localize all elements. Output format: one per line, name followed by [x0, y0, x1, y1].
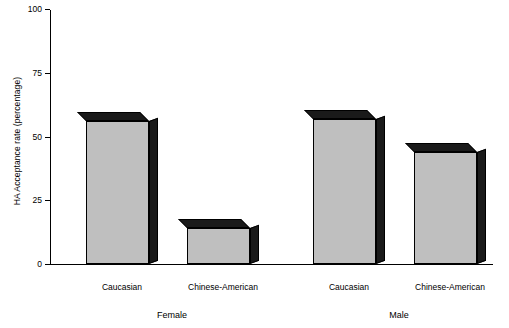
x-axis-line	[50, 264, 493, 265]
y-tick-label: 25	[33, 195, 42, 205]
bar-front-face	[414, 152, 477, 264]
bar-top-face	[178, 219, 250, 228]
x-group-label-female: Female	[157, 310, 187, 320]
x-category-label-female-caucasian: Caucasian	[102, 282, 142, 292]
y-axis-line	[50, 10, 51, 265]
bar-top-face	[405, 143, 477, 152]
bar-side-face	[250, 225, 259, 264]
bar-front-face	[86, 121, 149, 264]
y-tick-mark	[45, 200, 50, 201]
bar-top-face	[304, 110, 376, 119]
y-tick-label: 0	[37, 259, 42, 269]
x-category-label-male-chinese-american: Chinese-American	[415, 282, 485, 292]
bar-side-face	[149, 118, 158, 264]
y-tick-label: 50	[33, 132, 42, 142]
y-tick-mark	[45, 73, 50, 74]
y-tick-label: 100	[28, 4, 42, 14]
bar-side-face	[477, 149, 486, 264]
bar-front-face	[313, 119, 376, 264]
y-tick-mark	[45, 264, 50, 265]
bar-front-face	[187, 228, 250, 264]
bar-chart: HA Acceptance rate (percentage) 0 25 50 …	[0, 0, 509, 328]
plot-area: 0 25 50 75 100	[50, 10, 493, 265]
x-category-label-male-caucasian: Caucasian	[329, 282, 369, 292]
y-axis-title: HA Acceptance rate (percentage)	[12, 10, 26, 272]
bar-female-chinese-american	[187, 228, 250, 264]
bar-female-caucasian	[86, 121, 149, 264]
y-tick-mark	[45, 137, 50, 138]
bar-male-caucasian	[313, 119, 376, 264]
bar-side-face	[376, 115, 385, 264]
y-tick-label: 75	[33, 68, 42, 78]
bar-top-face	[77, 112, 149, 121]
x-group-label-male: Male	[389, 310, 409, 320]
bar-male-chinese-american	[414, 152, 477, 264]
y-tick-mark	[45, 9, 50, 10]
x-category-label-female-chinese-american: Chinese-American	[188, 282, 258, 292]
